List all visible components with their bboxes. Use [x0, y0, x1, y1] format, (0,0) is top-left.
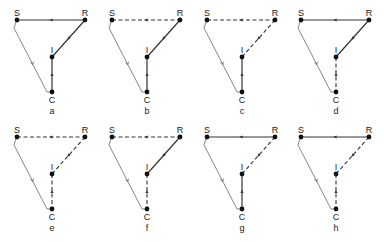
arrow-c-to-i-icon — [240, 190, 243, 193]
edge-s-c — [298, 139, 336, 209]
node-label-r: R — [177, 125, 184, 135]
node-label-s: S — [298, 125, 304, 135]
node-i — [50, 55, 55, 60]
edge-s-c — [109, 22, 147, 92]
panel-c: SRICc — [204, 8, 279, 116]
arrow-c-to-i-icon — [145, 73, 148, 76]
panel-h: SRICh — [298, 125, 373, 233]
edge-s-c — [109, 139, 147, 209]
node-label-s: S — [14, 8, 20, 18]
arrow-r-to-s-icon — [49, 18, 52, 21]
panel-caption: g — [239, 223, 244, 233]
node-label-s: S — [109, 8, 115, 18]
node-i — [334, 172, 339, 177]
node-c — [50, 90, 55, 95]
node-i — [145, 172, 150, 177]
node-c — [240, 90, 245, 95]
node-label-c: C — [49, 212, 56, 222]
node-label-s: S — [109, 125, 115, 135]
node-s — [110, 135, 115, 140]
node-c — [240, 207, 245, 212]
node-label-c: C — [333, 212, 340, 222]
node-i — [334, 55, 339, 60]
arrow-r-to-s-icon — [144, 18, 147, 21]
arrow-r-to-s-icon — [49, 135, 52, 138]
node-label-i: I — [241, 162, 244, 172]
node-label-s: S — [298, 8, 304, 18]
edge-s-c — [298, 22, 336, 92]
arrow-c-to-i-icon — [50, 190, 53, 193]
arrow-c-to-i-icon — [334, 190, 337, 193]
node-i — [240, 172, 245, 177]
arrow-c-to-i-icon — [334, 73, 337, 76]
panel-caption: a — [49, 106, 54, 116]
panel-caption: d — [333, 106, 338, 116]
node-label-i: I — [241, 45, 244, 55]
node-s — [205, 18, 210, 23]
node-r — [273, 18, 278, 23]
edge-s-c — [204, 22, 242, 92]
node-label-i: I — [51, 45, 54, 55]
panel-a: SRICa — [14, 8, 89, 116]
node-label-i: I — [146, 162, 149, 172]
arrow-r-to-s-icon — [239, 18, 242, 21]
node-i — [50, 172, 55, 177]
node-r — [83, 18, 88, 23]
node-label-r: R — [366, 125, 373, 135]
panel-d: SRICd — [298, 8, 373, 116]
node-label-r: R — [177, 8, 184, 18]
node-label-r: R — [272, 125, 279, 135]
node-r — [273, 135, 278, 140]
edge-s-c — [14, 22, 52, 92]
node-r — [367, 18, 372, 23]
arrow-r-to-s-icon — [144, 135, 147, 138]
node-i — [145, 55, 150, 60]
node-label-c: C — [49, 95, 56, 105]
node-label-i: I — [335, 162, 338, 172]
node-r — [367, 135, 372, 140]
node-s — [205, 135, 210, 140]
figure-grid: SRICaSRICbSRICcSRICdSRICeSRICfSRICgSRICh — [0, 0, 384, 242]
node-label-i: I — [335, 45, 338, 55]
arrow-r-to-s-icon — [333, 135, 336, 138]
arrow-r-to-s-icon — [239, 135, 242, 138]
panel-caption: e — [49, 223, 54, 233]
node-label-c: C — [239, 95, 246, 105]
node-c — [145, 90, 150, 95]
node-r — [178, 18, 183, 23]
node-label-r: R — [366, 8, 373, 18]
edge-s-c — [14, 139, 52, 209]
node-s — [15, 18, 20, 23]
panel-f: SRICf — [109, 125, 184, 233]
node-label-c: C — [144, 95, 151, 105]
panel-caption: h — [333, 223, 338, 233]
node-s — [299, 18, 304, 23]
panel-caption: b — [144, 106, 149, 116]
node-c — [334, 90, 339, 95]
node-label-i: I — [146, 45, 149, 55]
node-label-c: C — [239, 212, 246, 222]
node-r — [178, 135, 183, 140]
arrow-c-to-i-icon — [50, 73, 53, 76]
node-s — [110, 18, 115, 23]
panel-e: SRICe — [14, 125, 89, 233]
node-label-r: R — [82, 125, 89, 135]
arrow-c-to-i-icon — [240, 73, 243, 76]
node-c — [334, 207, 339, 212]
node-label-c: C — [333, 95, 340, 105]
panel-caption: f — [146, 223, 149, 233]
node-label-i: I — [51, 162, 54, 172]
diagram-canvas: SRICaSRICbSRICcSRICdSRICeSRICfSRICgSRICh — [0, 0, 384, 242]
node-c — [145, 207, 150, 212]
panel-b: SRICb — [109, 8, 184, 116]
arrow-r-to-s-icon — [333, 18, 336, 21]
node-s — [15, 135, 20, 140]
node-label-s: S — [204, 125, 210, 135]
arrow-c-to-i-icon — [145, 190, 148, 193]
node-label-s: S — [14, 125, 20, 135]
node-r — [83, 135, 88, 140]
node-s — [299, 135, 304, 140]
node-label-c: C — [144, 212, 151, 222]
node-label-r: R — [272, 8, 279, 18]
edge-s-c — [204, 139, 242, 209]
